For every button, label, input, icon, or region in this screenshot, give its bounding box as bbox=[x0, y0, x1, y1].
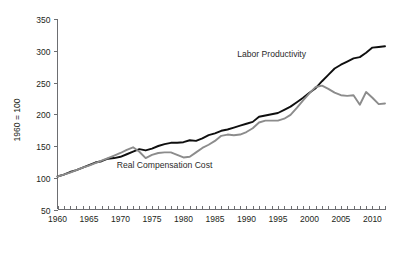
x-tick-label: 2000 bbox=[300, 214, 319, 224]
x-tick-label: 2010 bbox=[363, 214, 382, 224]
x-tick-label: 1995 bbox=[268, 214, 287, 224]
x-tick-label: 2005 bbox=[331, 214, 350, 224]
x-tick-label: 1990 bbox=[237, 214, 256, 224]
y-tick-labels: 50100150200250300350 bbox=[36, 15, 50, 216]
x-tick-label: 1980 bbox=[174, 214, 193, 224]
series-line-labor-productivity bbox=[58, 46, 386, 176]
x-minor-tick-marks bbox=[59, 206, 386, 210]
x-tick-labels: 1960196519701975198019851990199520002005… bbox=[48, 214, 382, 224]
x-axis: 1960196519701975198019851990199520002005… bbox=[48, 206, 385, 224]
y-tick-label: 100 bbox=[36, 174, 50, 184]
series-annotation: Real Compensation Cost bbox=[117, 160, 213, 170]
y-tick-label: 350 bbox=[36, 15, 50, 25]
x-tick-label: 1965 bbox=[80, 214, 99, 224]
y-tick-label: 200 bbox=[36, 110, 50, 120]
y-tick-label: 250 bbox=[36, 79, 50, 89]
line-chart: 50100150200250300350 1960196519701975198… bbox=[0, 0, 396, 253]
y-tick-label: 150 bbox=[36, 142, 50, 152]
x-tick-label: 1960 bbox=[48, 214, 67, 224]
y-axis-title: 1960 = 100 bbox=[12, 98, 22, 141]
y-tick-label: 300 bbox=[36, 47, 50, 57]
series-annotation: Labor Productivity bbox=[237, 49, 306, 59]
y-tick-marks bbox=[54, 20, 58, 211]
x-tick-label: 1970 bbox=[111, 214, 130, 224]
caption-bar: Figure 4.8 bbox=[0, 240, 396, 253]
figure-container: 50100150200250300350 1960196519701975198… bbox=[0, 0, 396, 253]
series-lines bbox=[58, 46, 386, 176]
x-tick-label: 1985 bbox=[205, 214, 224, 224]
y-axis: 50100150200250300350 bbox=[36, 15, 57, 216]
series-annotations: Labor ProductivityReal Compensation Cost bbox=[117, 49, 307, 169]
x-tick-label: 1975 bbox=[143, 214, 162, 224]
